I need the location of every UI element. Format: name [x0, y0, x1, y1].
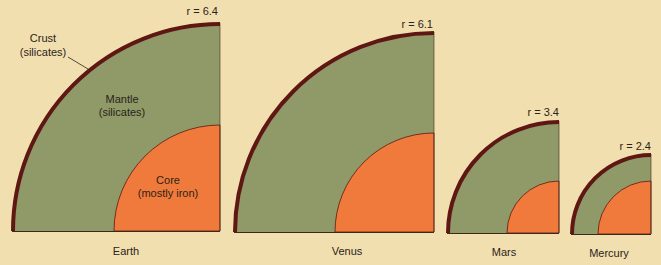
planet-earth: r = 6.4 Crust (silicates) Mantle (silica… — [12, 5, 220, 257]
mercury-name: Mercury — [589, 247, 629, 259]
earth-radius-label: r = 6.4 — [187, 5, 219, 17]
planet-interiors-diagram: r = 6.4 Crust (silicates) Mantle (silica… — [0, 0, 661, 265]
planet-venus: r = 6.1 Venus — [234, 18, 434, 257]
mantle-label: Mantle — [105, 93, 138, 105]
planet-mars: r = 3.4 Mars — [447, 106, 559, 258]
mars-radius-label: r = 3.4 — [528, 106, 560, 118]
core-label: Core — [156, 174, 180, 186]
venus-name: Venus — [332, 245, 363, 257]
crust-label: Crust — [30, 32, 56, 44]
crust-sublabel: (silicates) — [20, 46, 66, 58]
mercury-radius-label: r = 2.4 — [620, 140, 652, 152]
planet-mercury: r = 2.4 Mercury — [571, 140, 651, 259]
venus-radius-label: r = 6.1 — [402, 18, 434, 30]
mantle-sublabel: (silicates) — [99, 106, 145, 118]
earth-name: Earth — [113, 245, 139, 257]
mars-name: Mars — [492, 246, 517, 258]
core-sublabel: (mostly iron) — [138, 187, 199, 199]
crust-leader-line — [68, 57, 88, 69]
